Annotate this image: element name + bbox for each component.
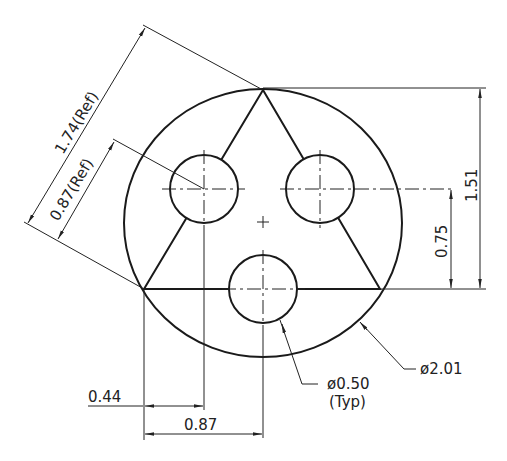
hole-typ-label: (Typ) [329, 393, 366, 411]
dim-label-0-75: 0.75 [433, 225, 451, 258]
dim-label-0-87-ref: 0.87(Ref) [46, 155, 97, 224]
dim-label-1-51: 1.51 [463, 169, 481, 202]
hole-dia-label: ø0.50 [327, 375, 370, 393]
leader-outer [360, 322, 416, 369]
dim-label-1-74: 1.74(Ref) [51, 88, 102, 157]
outer-dia-label: ø2.01 [420, 360, 463, 378]
dim-label-0-87: 0.87 [184, 416, 217, 434]
technical-drawing: 1.74(Ref) 0.87(Ref) 1.51 0.75 0.44 0.87 … [0, 0, 507, 461]
dim-label-0-44: 0.44 [88, 388, 121, 406]
dim-bottom [88, 228, 263, 440]
dim-1-74 [24, 25, 263, 289]
